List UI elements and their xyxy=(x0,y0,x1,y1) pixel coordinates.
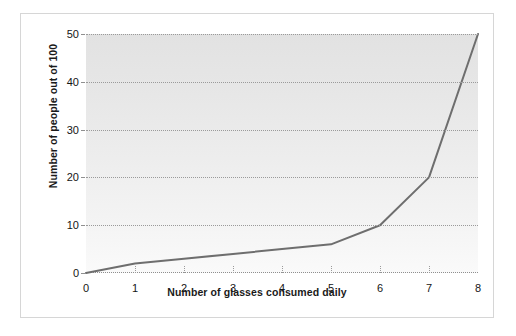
gridline-horizontal xyxy=(86,82,478,83)
y-tick-label: 10 xyxy=(67,219,79,231)
gridline-horizontal xyxy=(86,130,478,131)
y-tick-label: 30 xyxy=(67,124,79,136)
y-axis-title: Number of people out of 100 xyxy=(47,21,59,211)
gridline-horizontal xyxy=(86,34,478,35)
y-tick-label: 40 xyxy=(67,76,79,88)
gridline-horizontal xyxy=(86,225,478,226)
y-tick-mark xyxy=(81,82,85,83)
x-tick-mark xyxy=(282,266,283,273)
y-tick-mark xyxy=(81,225,85,226)
y-tick-mark xyxy=(81,273,85,274)
x-tick-mark xyxy=(233,266,234,273)
y-tick-label: 20 xyxy=(67,171,79,183)
chart-figure: Number of people out of 100 010203040500… xyxy=(20,13,494,318)
y-tick-mark xyxy=(81,34,85,35)
line-series xyxy=(86,34,478,273)
y-tick-mark xyxy=(81,130,85,131)
x-tick-mark xyxy=(429,266,430,273)
y-tick-label: 50 xyxy=(67,28,79,40)
x-axis-title: Number of glasses consumed daily xyxy=(21,286,493,298)
x-tick-mark xyxy=(331,266,332,273)
x-tick-mark xyxy=(184,266,185,273)
x-tick-mark xyxy=(135,266,136,273)
x-tick-mark xyxy=(380,266,381,273)
y-tick-mark xyxy=(81,177,85,178)
plot-area: 01020304050012345678 xyxy=(86,34,478,273)
y-tick-label: 0 xyxy=(73,267,79,279)
gridline-horizontal xyxy=(86,177,478,178)
